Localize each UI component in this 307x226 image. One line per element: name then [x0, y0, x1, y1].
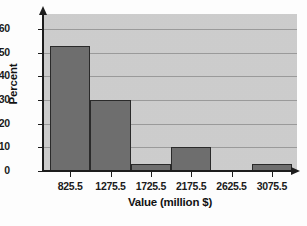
bar-2175.5: [171, 147, 211, 171]
x-tick-label-1275.5: 1275.5: [95, 180, 125, 192]
y-tick-40: [38, 76, 43, 77]
y-tick-20: [38, 124, 43, 125]
gridline-60: [43, 29, 297, 30]
y-tick-label-text: 10: [0, 140, 10, 152]
y-tick-0: [38, 171, 43, 172]
y-tick-10: [38, 147, 43, 148]
bar-1275.5: [90, 100, 130, 171]
x-tick-label-3075.5: 3075.5: [257, 180, 287, 192]
x-tick-label-2625.5: 2625.5: [216, 180, 246, 192]
x-tick-1275.5: [111, 172, 112, 177]
y-tick-label-text: 60: [0, 22, 10, 34]
x-tick-2175.5: [191, 172, 192, 177]
x-axis-line: [42, 170, 292, 172]
y-axis-arrow-icon: [39, 6, 47, 15]
x-tick-label-825.5: 825.5: [58, 180, 83, 192]
x-axis-arrow-icon: [291, 167, 300, 175]
y-tick-50: [38, 53, 43, 54]
y-tick-label-text: 0: [0, 164, 10, 176]
bar-825.5: [50, 46, 90, 171]
y-tick-30: [38, 100, 43, 101]
x-tick-label-2175.5: 2175.5: [176, 180, 206, 192]
x-tick-1725.5: [151, 172, 152, 177]
x-tick-825.5: [70, 172, 71, 177]
x-tick-label-1725.5: 1725.5: [136, 180, 166, 192]
x-tick-3075.5: [272, 172, 273, 177]
scan-bleedthrough-artifact: [0, 206, 307, 226]
x-tick-2625.5: [232, 172, 233, 177]
histogram-figure: 0102030405060 825.51275.51725.52175.5262…: [0, 0, 307, 226]
y-axis-title: Percent: [7, 49, 19, 119]
y-tick-60: [38, 29, 43, 30]
